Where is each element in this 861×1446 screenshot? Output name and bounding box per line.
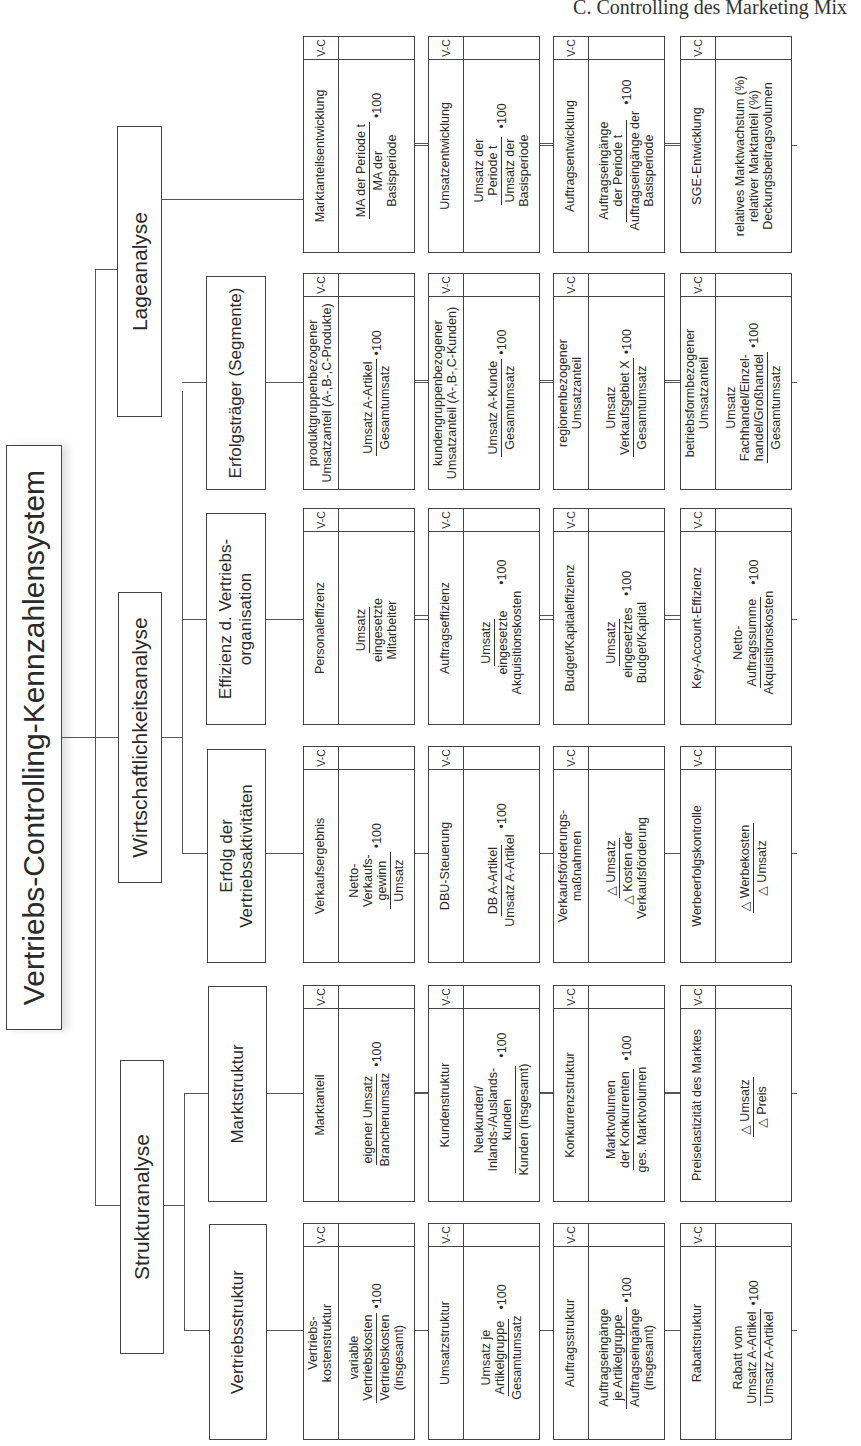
- vc-label: V-C: [554, 1224, 589, 1246]
- connector: [184, 1093, 185, 1331]
- numerator: Neukunden/ Inlands-/Auslands- kunden: [472, 1066, 516, 1174]
- kpi-card-erfolgstraeger-4: betriebsformbezogener Umsatzanteil V-C U…: [680, 273, 792, 490]
- fraction: Umsatz eingesetzte Akquisitionskosten: [479, 589, 524, 697]
- kpi-card-marktstruktur-1: Marktanteil V-C eigener Umsatz Branchenu…: [303, 985, 415, 1202]
- kpi-name: Verkaufsförderungs- maßnahmen: [554, 769, 589, 962]
- numerator: Marktvolumen der Konkurrenten: [604, 1069, 634, 1170]
- kpi-name: SGE-Entwicklung: [681, 59, 716, 252]
- vc-label: V-C: [429, 986, 464, 1008]
- fraction: MA der Periode t MA der Basisperiode: [354, 122, 399, 219]
- connector: [95, 737, 118, 738]
- kpi-card-erfolg-2: DBU-Steuerung V-C DB A-Artikel Umsatz A-…: [428, 746, 540, 963]
- fraction: Marktvolumen der Konkurrenten ges. Markt…: [604, 1065, 649, 1175]
- vc-label: V-C: [429, 37, 464, 59]
- root-box: Vertriebs-Controlling-Kennzahlensystem: [6, 445, 62, 1030]
- level2-erfolgstraeger: Erfolgsträger (Segmente): [206, 276, 266, 490]
- kpi-card-marktstruktur-2: Kundenstruktur V-C Neukunden/ Inlands-/A…: [428, 985, 540, 1202]
- vc-label: V-C: [554, 37, 589, 59]
- kpi-name: Vertriebs- kostenstruktur: [304, 1246, 339, 1439]
- multiplier: •100: [495, 103, 509, 128]
- numerator: Umsatz: [479, 619, 495, 665]
- multiplier: •100: [747, 323, 761, 348]
- multiplier: •100: [620, 1277, 634, 1302]
- kpi-formula: Umsatz A-Kunde Gesamtumsatz •100: [464, 296, 539, 489]
- fraction: DB A-Artikel Umsatz A-Artikel: [486, 832, 517, 928]
- kpi-formula: Umsatz Verkaufsgebiet X Gesamtumsatz •10…: [589, 296, 664, 489]
- connector: [182, 382, 206, 383]
- vc-label: V-C: [304, 747, 339, 769]
- connector: [540, 1092, 553, 1093]
- numerator: Umsatz der Periode t: [472, 137, 502, 205]
- numerator: Umsatz A-Kunde: [486, 359, 502, 457]
- vc-value-cell: [464, 274, 539, 296]
- vc-value-cell: [716, 986, 791, 1008]
- connector: [540, 853, 553, 854]
- multiplier: •100: [370, 1283, 384, 1308]
- kpi-card-erfolgstraeger-1: produktgruppenbezogener Umsatzanteil (A-…: [303, 273, 415, 490]
- vc-value-cell: [464, 1224, 539, 1246]
- level1-wirtschaftlichkeitsanalyse: Wirtschaftlichkeitsanalyse: [118, 592, 162, 883]
- kpi-name: Umsatzstruktur: [429, 1246, 464, 1439]
- kpi-formula: relatives Marktwachstum (%) relativer Ma…: [716, 59, 791, 252]
- multiplier: •100: [495, 1284, 509, 1309]
- vc-value-cell: [589, 1224, 664, 1246]
- vc-label: V-C: [304, 509, 339, 531]
- connector: [415, 1330, 428, 1331]
- numerator: △ Umsatz: [604, 838, 620, 897]
- denominator: Umsatz A-Artikel: [502, 832, 517, 928]
- kpi-formula: Umsatz der Periode t Umsatz der Basisper…: [464, 59, 539, 252]
- vc-label: V-C: [681, 986, 716, 1008]
- denominator: eingesetztes Budget/Kapital: [620, 600, 649, 685]
- denominator: MA der Basisperiode: [370, 132, 399, 208]
- multiplier: •100: [370, 823, 384, 848]
- numerator: DB A-Artikel: [486, 845, 502, 916]
- connector: [665, 1330, 680, 1331]
- numerator: MA der Periode t: [354, 122, 370, 219]
- connector: [415, 1092, 428, 1093]
- denominator: eingesetzte Mitarbeiter: [370, 596, 399, 664]
- kpi-name: Konkurrenzstruktur: [554, 1008, 589, 1201]
- fraction: Umsatz Verkaufsgebiet X Gesamtumsatz: [604, 358, 649, 457]
- denominator: Gesamtumsatz: [634, 364, 649, 452]
- vc-value-cell: [589, 747, 664, 769]
- connector: [95, 270, 96, 1206]
- kpi-card-erfolg-3: Verkaufsförderungs- maßnahmen V-C △ Umsa…: [553, 746, 665, 963]
- kpi-formula: Umsatz eingesetzte Mitarbeiter: [339, 531, 414, 724]
- kpi-formula: DB A-Artikel Umsatz A-Artikel •100: [464, 769, 539, 962]
- multiplier: •100: [620, 329, 634, 354]
- kpi-card-effizienz-1: Personaleffizenz V-C Umsatz eingesetzte …: [303, 508, 415, 725]
- connector: [415, 615, 428, 616]
- fraction: Umsatz eingesetzte Mitarbeiter: [354, 596, 399, 664]
- kpi-formula: Marktvolumen der Konkurrenten ges. Markt…: [589, 1008, 664, 1201]
- kpi-name: Auftragsentwicklung: [554, 59, 589, 252]
- vc-label: V-C: [681, 1224, 716, 1246]
- connector: [540, 380, 553, 381]
- denominator: Gesamtumsatz: [377, 364, 392, 452]
- denominator: △ Preis: [754, 1084, 769, 1130]
- denominator: Umsatz A-Artikel: [761, 1309, 776, 1405]
- kpi-name: Auftragseffizienz: [429, 531, 464, 724]
- multiplier: •100: [370, 330, 384, 355]
- connector: [162, 737, 182, 738]
- fraction: Netto- Verkaufs- gewinn Umsatz: [347, 852, 406, 909]
- connector: [182, 619, 206, 620]
- fraction: Umsatz eingesetztes Budget/Kapital: [604, 600, 649, 685]
- fraction: Umsatz je Artikelgruppe Gesamtumsatz: [479, 1314, 524, 1402]
- multiplier: •100: [495, 1032, 509, 1057]
- connector: [540, 1330, 553, 1331]
- kpi-name: Rabattstruktur: [681, 1246, 716, 1439]
- numerator: Umsatz je Artikelgruppe: [479, 1319, 509, 1397]
- kpi-formula: Umsatz je Artikelgruppe Gesamtumsatz •10…: [464, 1246, 539, 1439]
- kpi-card-erfolg-1: Verkaufsergebnis V-C Netto- Verkaufs- ge…: [303, 746, 415, 963]
- multiplier: •100: [495, 803, 509, 828]
- kpi-name: Budget/Kapitaleffizienz: [554, 531, 589, 724]
- connector: [164, 1205, 184, 1206]
- vc-value-cell: [716, 274, 791, 296]
- kpi-formula: △ Umsatz △ Preis: [716, 1008, 791, 1201]
- multiplier: •100: [370, 1041, 384, 1066]
- connector: [665, 1092, 680, 1093]
- multiplier: •100: [620, 1036, 634, 1061]
- fraction: variable Vertriebskosten Vertriebskosten…: [347, 1313, 406, 1403]
- numerator: variable Vertriebskosten: [347, 1313, 377, 1403]
- connector: [95, 1205, 120, 1206]
